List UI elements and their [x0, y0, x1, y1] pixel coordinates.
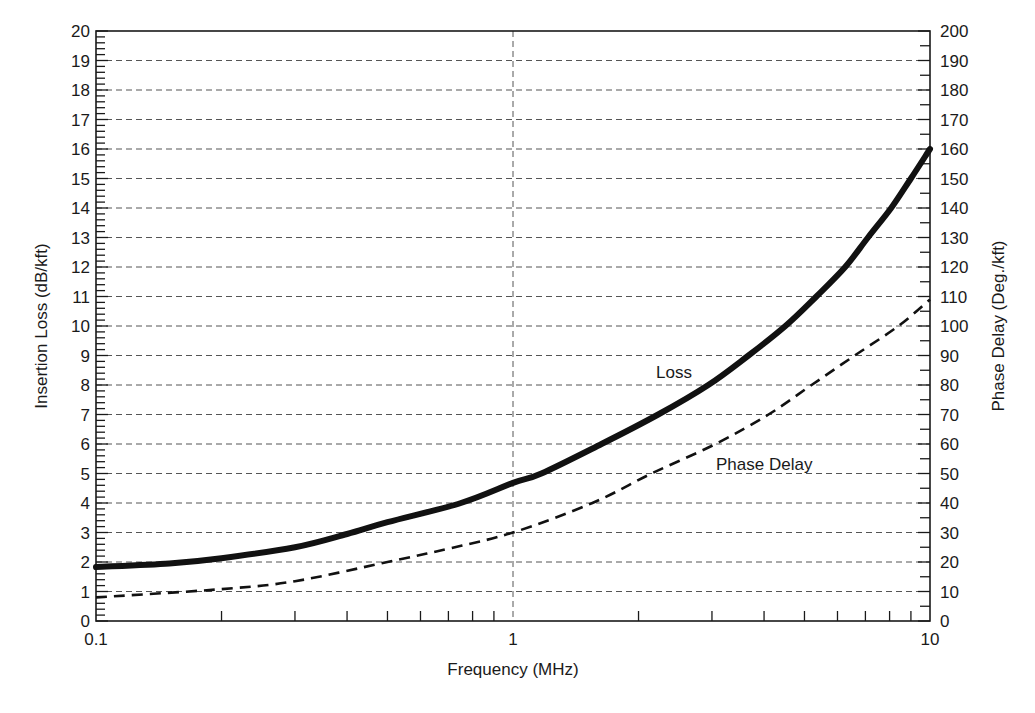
left-tick-label: 3	[81, 524, 90, 543]
right-axis-ticks	[918, 31, 930, 621]
x-tick-label: 1	[508, 630, 517, 649]
x-axis-tick-labels: 0.1110	[84, 630, 939, 649]
left-tick-label: 17	[71, 111, 90, 130]
left-tick-label: 1	[81, 583, 90, 602]
right-tick-label: 90	[940, 347, 959, 366]
left-tick-label: 15	[71, 170, 90, 189]
left-tick-label: 0	[81, 612, 90, 631]
left-tick-label: 18	[71, 81, 90, 100]
left-tick-label: 7	[81, 406, 90, 425]
left-tick-label: 16	[71, 140, 90, 159]
right-tick-label: 50	[940, 465, 959, 484]
left-tick-label: 12	[71, 258, 90, 277]
right-tick-label: 30	[940, 524, 959, 543]
left-tick-label: 4	[81, 494, 90, 513]
right-tick-label: 60	[940, 435, 959, 454]
left-tick-label: 13	[71, 229, 90, 248]
left-tick-label: 11	[72, 288, 90, 307]
right-tick-label: 70	[940, 406, 959, 425]
chart: 01234567891011121314151617181920 0102030…	[0, 0, 1035, 713]
left-tick-label: 2	[81, 553, 90, 572]
left-tick-label: 9	[81, 347, 90, 366]
right-tick-label: 170	[940, 111, 968, 130]
x-axis-ticks	[222, 611, 911, 621]
right-tick-label: 100	[940, 317, 968, 336]
right-tick-label: 20	[940, 553, 959, 572]
left-axis-ticks	[96, 31, 108, 621]
loss-annotation: Loss	[656, 363, 692, 382]
right-tick-label: 110	[940, 288, 967, 307]
right-tick-label: 40	[940, 494, 959, 513]
right-tick-label: 0	[940, 612, 949, 631]
x-axis-title: Frequency (MHz)	[447, 660, 578, 679]
right-axis-title: Phase Delay (Deg./kft)	[989, 240, 1008, 411]
right-tick-label: 130	[940, 229, 968, 248]
right-tick-label: 120	[940, 258, 968, 277]
left-tick-label: 8	[81, 376, 90, 395]
left-axis-tick-labels: 01234567891011121314151617181920	[71, 22, 90, 631]
left-tick-label: 5	[81, 465, 90, 484]
right-axis-tick-labels: 0102030405060708090100110120130140150160…	[940, 22, 968, 631]
phase-delay-annotation: Phase Delay	[716, 455, 813, 474]
right-tick-label: 80	[940, 376, 959, 395]
right-tick-label: 140	[940, 199, 968, 218]
left-tick-label: 14	[71, 199, 90, 218]
left-tick-label: 20	[71, 22, 90, 41]
right-tick-label: 10	[940, 583, 959, 602]
left-tick-label: 6	[81, 435, 90, 454]
left-axis-title: Insertion Loss (dB/kft)	[32, 243, 51, 408]
right-tick-label: 150	[940, 170, 968, 189]
right-tick-label: 180	[940, 81, 968, 100]
x-tick-label: 10	[921, 630, 940, 649]
left-tick-label: 10	[71, 317, 90, 336]
right-tick-label: 200	[940, 22, 968, 41]
right-tick-label: 190	[940, 52, 968, 71]
x-tick-label: 0.1	[84, 630, 108, 649]
left-tick-label: 19	[71, 52, 90, 71]
right-tick-label: 160	[940, 140, 968, 159]
